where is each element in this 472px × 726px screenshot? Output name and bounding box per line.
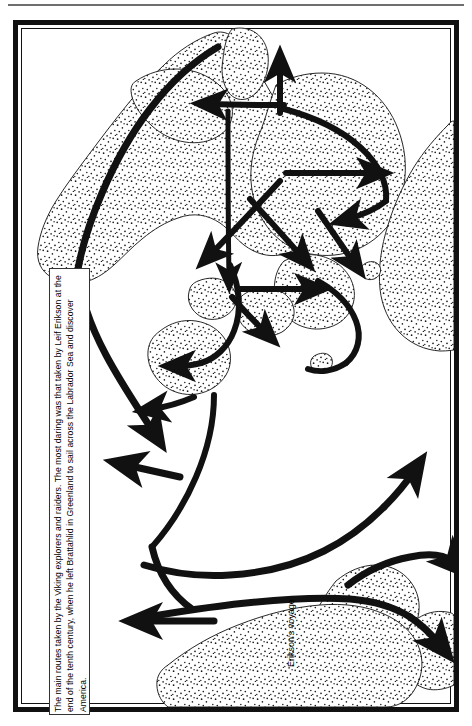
route-eriksons-voyage xyxy=(144,507,384,576)
route-eriksons-voyage-tail xyxy=(384,471,414,507)
land-cape-breton xyxy=(188,278,236,319)
route-arctic-westward xyxy=(210,104,284,105)
eriksons-voyage-label-text: Erikson's voyage xyxy=(286,581,298,667)
route-return-northwest xyxy=(126,465,180,477)
land-small-isle-a xyxy=(361,262,381,280)
route-greenland-return xyxy=(152,547,192,609)
figure-caption-box: The main routes taken by the Viking expl… xyxy=(49,268,90,715)
route-iceland-arrive xyxy=(178,363,201,366)
figure-caption-text: The main routes taken by the Viking expl… xyxy=(52,269,89,716)
page-top-rule xyxy=(8,4,464,6)
map-frame: The main routes taken by the Viking expl… xyxy=(13,20,459,712)
route-iceland-to-west xyxy=(152,397,194,409)
route-brattahlid-to-vinland xyxy=(228,111,229,277)
eriksons-voyage-label: Erikson's voyage xyxy=(286,581,372,615)
